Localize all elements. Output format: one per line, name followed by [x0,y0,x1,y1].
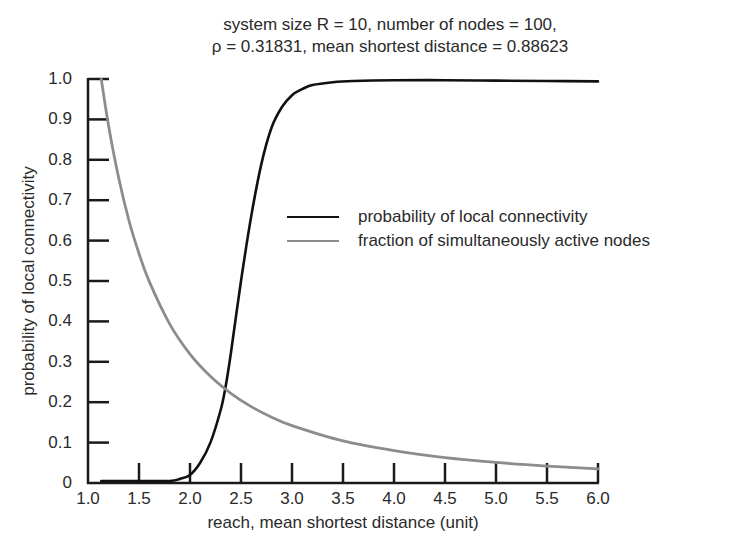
legend-swatch-black-line [287,216,339,219]
y-axis-label: probability of local connectivity [19,71,39,491]
x-tick-label: 5.5 [522,490,572,508]
legend-label: probability of local connectivity [358,207,588,227]
series-lines [101,79,598,481]
x-tick-label: 1.0 [63,490,113,508]
x-tick-label: 6.0 [573,490,623,508]
x-tick-label: 4.0 [369,490,419,508]
x-tick-label: 2.0 [165,490,215,508]
legend-label: fraction of simultaneously active nodes [358,231,650,251]
x-tick-label: 3.0 [267,490,317,508]
x-axis-label: reach, mean shortest distance (unit) [88,513,598,533]
x-tick-label: 3.5 [318,490,368,508]
active-nodes-curve [101,79,598,469]
legend-item-connectivity: probability of local connectivity [287,206,588,228]
plot-area [0,0,734,553]
connectivity-curve [101,80,598,481]
x-tick-label: 4.5 [420,490,470,508]
legend-swatch-gray-line [287,240,339,243]
x-tick-label: 1.5 [114,490,164,508]
x-tick-label: 5.0 [471,490,521,508]
axes [87,78,599,484]
x-tick-label: 2.5 [216,490,266,508]
legend-item-active-nodes: fraction of simultaneously active nodes [287,230,650,252]
